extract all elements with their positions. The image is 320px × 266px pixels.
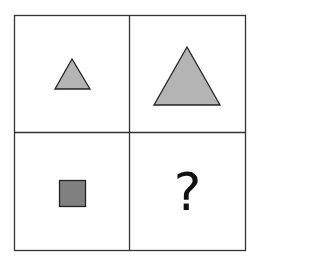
missing-cell-question-mark: ? xyxy=(130,133,245,250)
small-square-icon xyxy=(60,181,86,207)
